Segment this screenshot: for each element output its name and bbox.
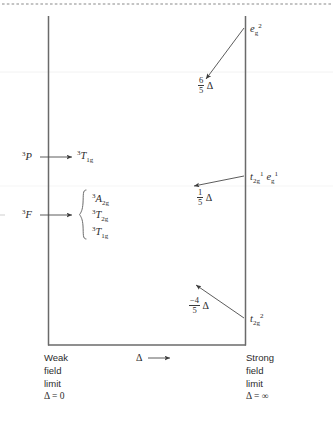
- term-F-symbol: F: [26, 209, 32, 220]
- fraction-six-fifths: 6 5: [198, 76, 204, 95]
- background-rules: [0, 72, 333, 186]
- weak-field-term-T1g-from-P: 3T1g: [77, 149, 93, 164]
- delta-symbol-eg2: Δ: [207, 80, 213, 91]
- strong-limit-line1: Strong: [246, 352, 274, 365]
- strong-limit-line3: limit: [246, 378, 274, 391]
- config-eg2: eg2: [250, 22, 262, 37]
- free-ion-term-F: 3F: [22, 208, 32, 220]
- correlation-diagram-figure: 3P 3F 3T1g 3A2g 3T2g 3T1g eg2 t2g1eg1 t2…: [0, 0, 333, 426]
- energy-label-t2g1eg1: 1 5 Δ: [197, 188, 212, 207]
- delta-symbol-t2g2: Δ: [203, 300, 209, 311]
- config-t2g2: t2g2: [250, 312, 263, 327]
- weak-field-terms-from-F: 3A2g 3T2g 3T1g: [92, 191, 109, 242]
- weak-field-limit-caption: Weak field limit Δ = 0: [44, 352, 68, 403]
- strong-limit-line4: Δ = ∞: [246, 390, 274, 403]
- weak-limit-line1: Weak: [44, 352, 68, 365]
- fraction-one-fifth: 1 5: [197, 188, 203, 207]
- energy-label-eg2: 6 5 Δ: [198, 76, 213, 95]
- energy-label-t2g2: −4 5 Δ: [189, 296, 209, 315]
- weak-limit-line2: field: [44, 365, 68, 378]
- term-grouping-brace: [80, 190, 86, 239]
- free-ion-term-P: 3P: [22, 150, 32, 162]
- fraction-negative-four-fifths: −4 5: [189, 296, 200, 315]
- delta-axis-label: Δ: [136, 352, 142, 363]
- weak-field-term-T2g: 3T2g: [92, 209, 109, 224]
- weak-field-term-T1g: 3T1g: [92, 225, 109, 240]
- config-t2g1-eg1: t2g1eg1: [250, 170, 278, 185]
- delta-symbol-t2g1eg1: Δ: [206, 192, 212, 203]
- strong-field-limit-caption: Strong field limit Δ = ∞: [246, 352, 274, 403]
- weak-field-term-A2g: 3A2g: [92, 192, 109, 207]
- term-P-symbol: P: [26, 151, 32, 162]
- strong-limit-line2: field: [246, 365, 274, 378]
- weak-limit-line4: Δ = 0: [44, 390, 68, 403]
- weak-limit-line3: limit: [44, 378, 68, 391]
